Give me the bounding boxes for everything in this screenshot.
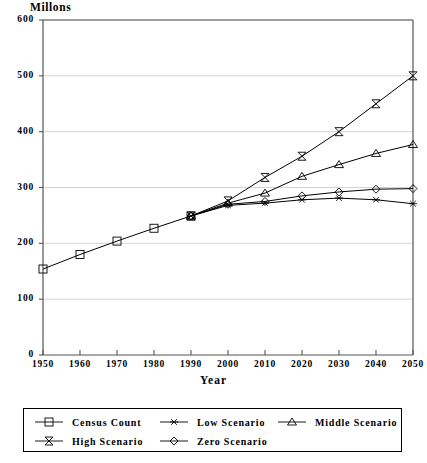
series-high-scenario <box>187 72 417 220</box>
series-low-scenario <box>187 195 417 218</box>
legend-marker-diamond-icon <box>159 434 191 448</box>
legend-label: Census Count <box>72 417 141 428</box>
x-axis-tick-label: 1950 <box>23 359 63 369</box>
legend-label: High Scenario <box>72 436 143 447</box>
series-line <box>191 198 413 216</box>
x-axis-tick-label: 1980 <box>134 359 174 369</box>
x-axis-tick-label: 2050 <box>393 359 427 369</box>
x-axis-tick-label: 2020 <box>282 359 322 369</box>
x-axis-tick-label: 2030 <box>319 359 359 369</box>
marker-bowtie <box>298 152 306 160</box>
y-axis-tick-label: 200 <box>0 237 34 247</box>
marker-asterisk <box>170 419 178 425</box>
marker-asterisk <box>372 197 380 203</box>
x-axis-tick-label: 2040 <box>356 359 396 369</box>
legend-label: Zero Scenario <box>197 436 267 447</box>
chart-legend: Census CountLow ScenarioMiddle ScenarioH… <box>23 408 402 452</box>
y-axis-tick-label: 100 <box>0 293 34 303</box>
legend-marker-triangle-icon <box>277 415 309 429</box>
y-axis-tick-label: 400 <box>0 126 34 136</box>
marker-bowtie <box>261 173 269 181</box>
series-zero-scenario <box>187 185 417 220</box>
y-axis-tick-label: 500 <box>0 70 34 80</box>
x-axis-tick-label: 1960 <box>60 359 100 369</box>
series-line <box>191 76 413 216</box>
x-axis-tick-label: 1990 <box>171 359 211 369</box>
y-axis-tick-label: 0 <box>0 349 34 359</box>
legend-item: Census Count <box>34 413 141 431</box>
series-line <box>43 216 191 269</box>
y-axis-tick-label: 300 <box>0 182 34 192</box>
series-census-count <box>39 212 195 273</box>
legend-marker-asterisk-icon <box>159 415 191 429</box>
legend-item: Low Scenario <box>159 413 265 431</box>
legend-item: Zero Scenario <box>159 432 267 450</box>
y-axis-tick-label: 600 <box>0 14 34 24</box>
legend-item: Middle Scenario <box>277 413 397 431</box>
legend-item: High Scenario <box>34 432 143 450</box>
plot-area <box>0 0 427 400</box>
marker-triangle <box>288 418 297 425</box>
x-axis-title: Year <box>0 374 427 386</box>
x-axis-tick-label: 1970 <box>97 359 137 369</box>
legend-label: Low Scenario <box>197 417 265 428</box>
legend-marker-bowtie-icon <box>34 434 66 448</box>
legend-marker-square-icon <box>34 415 66 429</box>
chart-root: Millons 0100200300400500600 195019601970… <box>0 0 427 463</box>
legend-label: Middle Scenario <box>315 417 397 428</box>
x-axis-tick-label: 2000 <box>208 359 248 369</box>
x-axis-tick-label: 2010 <box>245 359 285 369</box>
marker-bowtie <box>372 100 380 108</box>
